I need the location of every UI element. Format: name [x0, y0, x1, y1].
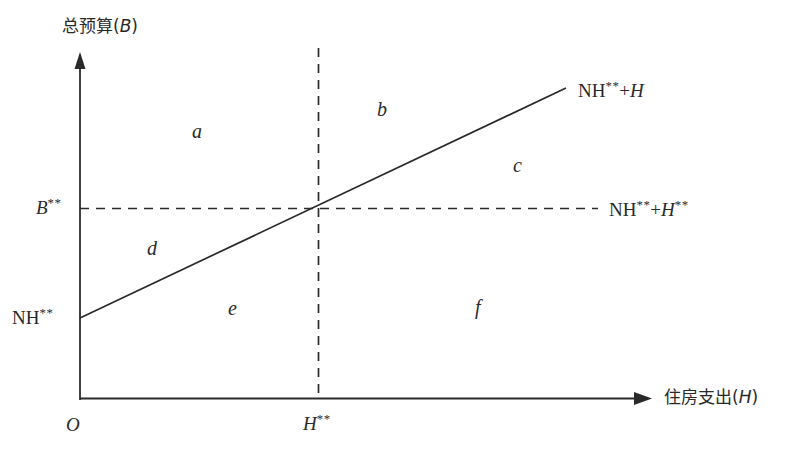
budget-line-label: NH**+H — [578, 80, 644, 100]
origin-label: O — [66, 415, 80, 434]
dashed-line-variable-superscript: ** — [675, 197, 689, 212]
region-label-d: d — [147, 238, 157, 258]
y-axis-title-close: ) — [131, 16, 138, 36]
y-axis-title-variable: B — [120, 16, 132, 36]
region-label-c: c — [513, 155, 522, 175]
region-label-b: b — [377, 99, 387, 119]
budget-line-base: NH — [578, 80, 605, 101]
x-tick-variable: H — [303, 413, 317, 434]
budget-line-superscript: ** — [605, 78, 619, 93]
x-axis-title-cjk: 住房支出( — [664, 387, 739, 407]
x-axis-title-variable: H — [739, 387, 752, 407]
x-axis-arrowhead — [634, 392, 652, 405]
dashed-line-plus: + — [650, 199, 661, 220]
y-intercept-label-nh-star-star: NH** — [12, 307, 53, 327]
x-tick-superscript: ** — [317, 411, 331, 426]
y-axis-title: 总预算(B) — [62, 18, 138, 35]
x-tick-label-h-star-star: H** — [303, 413, 331, 433]
budget-line-plus: + — [619, 80, 630, 101]
intercept-base: NH — [12, 307, 39, 328]
y-tick-superscript: ** — [48, 195, 62, 210]
y-tick-label-b-star-star: B** — [36, 197, 62, 217]
dashed-line-superscript: ** — [636, 197, 650, 212]
region-label-a: a — [192, 121, 202, 141]
budget-line — [80, 88, 566, 318]
x-axis-title: 住房支出(H) — [664, 389, 758, 406]
x-axis-title-close: ) — [751, 387, 758, 407]
budget-line-variable: H — [630, 80, 644, 101]
region-label-f: f — [475, 297, 481, 317]
region-label-e: e — [228, 298, 237, 318]
dashed-line-variable: H — [661, 199, 675, 220]
dashed-line-base: NH — [609, 199, 636, 220]
dashed-line-label: NH**+H** — [609, 199, 689, 219]
intercept-superscript: ** — [39, 305, 53, 320]
budget-constraint-diagram: 总预算(B) 住房支出(H) O B** H** NH** NH**+H NH*… — [0, 0, 807, 461]
y-tick-variable: B — [36, 197, 48, 218]
y-axis-arrowhead — [75, 52, 86, 69]
y-axis-title-cjk: 总预算( — [62, 16, 120, 36]
